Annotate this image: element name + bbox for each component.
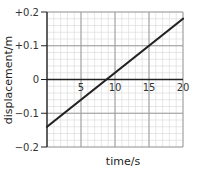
y-axis-ticks: +0.2+0.10−0.1−0.2 [15,7,47,153]
y-axis-title: displacement/m [2,36,15,125]
y-tick-label: +0.2 [15,7,39,18]
y-tick-label: −0.2 [15,142,39,153]
x-tick-label: 5 [78,82,84,93]
x-tick-label: 10 [109,82,122,93]
y-tick-label: +0.1 [15,40,39,51]
displacement-time-chart: +0.2+0.10−0.1−0.2 5101520 time/s displac… [0,0,199,173]
x-axis-title: time/s [106,155,141,168]
y-tick-label: 0 [33,74,39,85]
x-tick-label: 20 [177,82,190,93]
y-tick-label: −0.1 [15,108,39,119]
x-tick-label: 15 [143,82,156,93]
